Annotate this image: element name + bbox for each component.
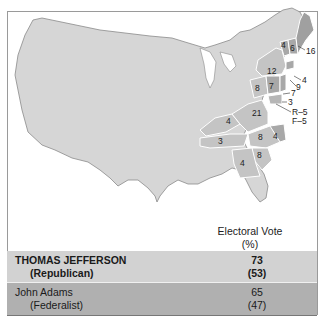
label-ky: 4 [226, 116, 231, 126]
label-md-f: F–5 [292, 116, 307, 126]
state-maryland [268, 94, 282, 104]
electoral-percent: (53) [207, 267, 307, 280]
vote-cell: 73 (53) [207, 254, 307, 280]
candidate-party: (Republican) [15, 267, 126, 280]
electoral-percent: (47) [207, 299, 307, 312]
legend-row-adams: John Adams (Federalist) 65 (47) [7, 283, 317, 316]
label-nc-r: 8 [258, 132, 263, 142]
electoral-votes: 73 [207, 254, 307, 267]
label-ny: 12 [267, 66, 277, 76]
legend-header-unit: (%) [200, 238, 300, 251]
candidate-name: THOMAS JEFFERSON [15, 254, 126, 266]
state-new-jersey [280, 74, 286, 92]
label-sc: 8 [257, 150, 262, 160]
label-ct: 9 [296, 82, 301, 92]
label-pa: 8 [255, 83, 260, 93]
electoral-votes: 65 [207, 286, 307, 299]
label-nh: 6 [290, 43, 295, 53]
label-nc-f: 4 [273, 131, 278, 141]
candidate-cell: THOMAS JEFFERSON (Republican) [15, 254, 126, 280]
label-ga: 4 [240, 158, 245, 168]
vote-cell: 65 (47) [207, 286, 307, 312]
candidate-cell: John Adams (Federalist) [15, 286, 83, 312]
label-va: 21 [252, 108, 262, 118]
state-connecticut [286, 60, 294, 70]
legend-row-jefferson: THOMAS JEFFERSON (Republican) 73 (53) [7, 251, 317, 283]
candidate-name: John Adams [15, 286, 73, 298]
us-map: 6 4 16 12 4 9 7 8 7 3 R–5 F–5 21 4 3 8 4… [0, 0, 327, 250]
label-de: 3 [288, 97, 293, 107]
label-pa-fed: 7 [269, 81, 274, 91]
label-ma: 16 [306, 46, 316, 56]
label-vt: 4 [281, 40, 286, 50]
candidate-party: (Federalist) [15, 299, 83, 312]
label-tn: 3 [218, 136, 223, 146]
label-ri: 4 [302, 75, 307, 85]
legend-header-title: Electoral Vote [200, 225, 300, 238]
legend-header: Electoral Vote (%) [200, 225, 300, 251]
